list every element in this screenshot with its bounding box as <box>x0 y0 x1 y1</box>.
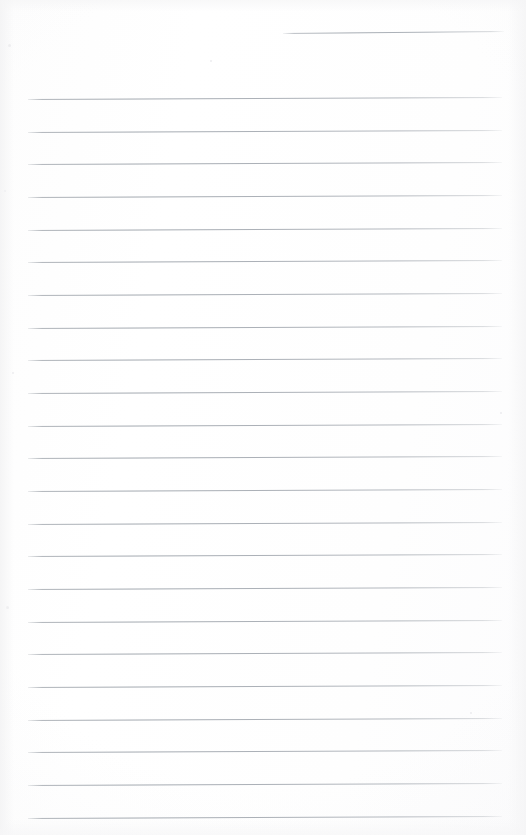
rule-line <box>28 489 502 492</box>
scan-fleck <box>210 60 212 62</box>
scan-fleck <box>6 606 9 609</box>
rule-line <box>28 424 502 427</box>
scan-fleck <box>8 44 11 47</box>
rule-line <box>28 522 502 525</box>
rule-line <box>28 783 502 786</box>
scan-fleck <box>470 712 472 714</box>
rule-line <box>28 456 502 459</box>
rule-line <box>28 620 502 623</box>
rule-line <box>28 228 502 231</box>
rule-line <box>28 718 502 721</box>
rule-line <box>28 97 502 100</box>
rule-line <box>28 554 502 557</box>
page-edge-shadow-right <box>508 0 526 835</box>
rule-line <box>28 293 502 296</box>
rule-line <box>28 358 502 361</box>
scan-fleck <box>4 190 6 192</box>
rule-line <box>28 130 502 133</box>
page-edge-shadow-top <box>0 0 526 12</box>
rule-line <box>28 391 502 394</box>
scan-fleck <box>500 412 502 414</box>
rule-line <box>28 685 502 688</box>
rule-line <box>28 162 502 165</box>
rule-line <box>28 587 502 590</box>
date-rule <box>283 31 504 34</box>
page-edge-shadow-bottom <box>0 819 526 835</box>
rule-line <box>28 816 502 819</box>
rule-line <box>28 326 502 329</box>
paper-texture <box>0 0 526 835</box>
scan-fleck <box>12 372 14 374</box>
rule-line <box>28 750 502 753</box>
rule-line <box>28 260 502 263</box>
page-edge-shadow-left <box>0 0 14 835</box>
notepad-page: Blank Ruled Notepad Sheet <box>0 0 526 835</box>
rule-line <box>28 195 502 198</box>
rule-line <box>28 652 502 655</box>
